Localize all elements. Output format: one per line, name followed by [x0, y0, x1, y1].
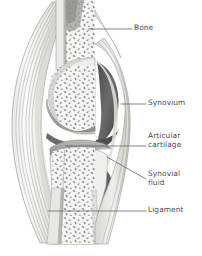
- label-ligament: Ligament: [148, 206, 184, 215]
- joint-illustration: [0, 0, 202, 256]
- anatomical-figure-synovial-joint: Bone Synovium Articular cartilage Synovi…: [0, 0, 202, 256]
- label-bone: Bone: [134, 24, 153, 33]
- label-synovium: Synovium: [148, 99, 185, 108]
- label-synovial-fluid: Synovial fluid: [148, 170, 180, 187]
- label-articular-cartilage: Articular cartilage: [148, 132, 181, 149]
